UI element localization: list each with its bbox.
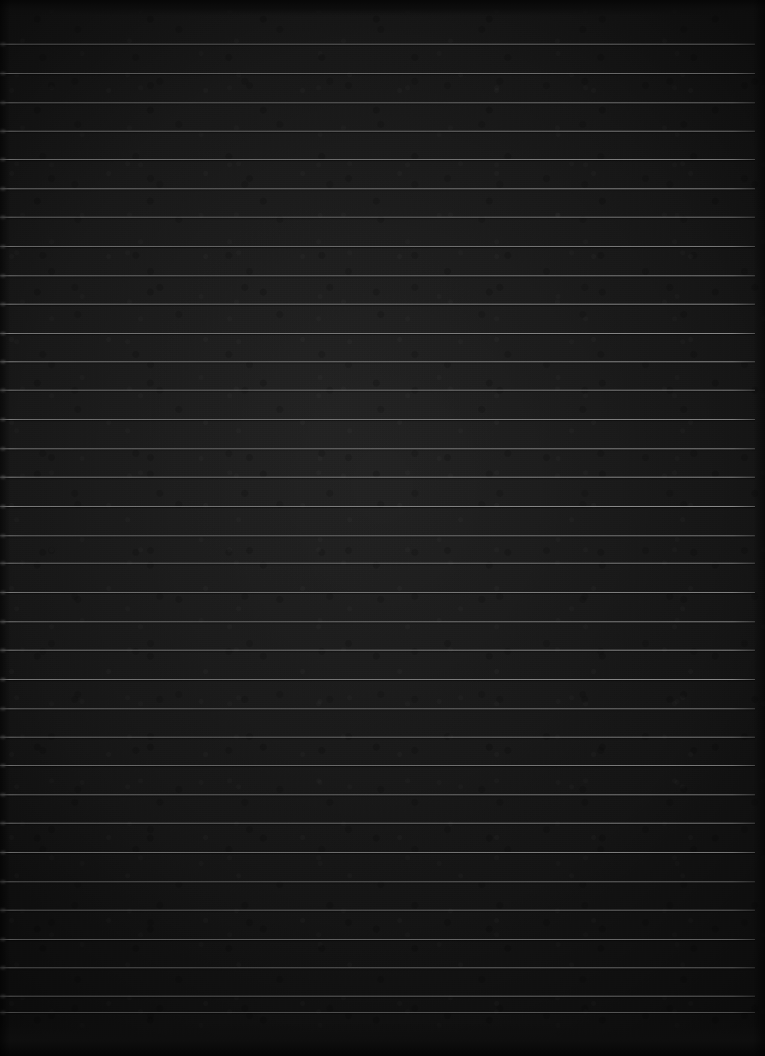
- page-top-edge-shadow: [0, 0, 765, 16]
- lined-paper-page: [0, 0, 765, 1056]
- page-left-edge-shadow: [0, 0, 10, 1056]
- vignette-overlay: [0, 0, 765, 1056]
- page-right-edge-shadow: [753, 0, 765, 1056]
- page-bottom-edge-shadow: [0, 1022, 765, 1056]
